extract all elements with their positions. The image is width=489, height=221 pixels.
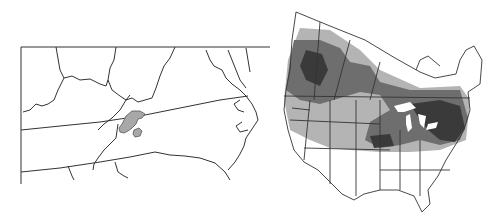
regional-range-map — [0, 0, 270, 221]
continental-distribution-map — [270, 0, 489, 221]
range-shading — [119, 111, 145, 137]
distribution-shading — [284, 28, 470, 152]
